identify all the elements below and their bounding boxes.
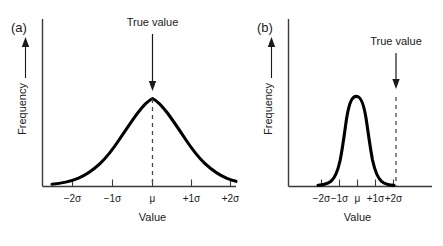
panel-a-label: (a) [11, 20, 27, 35]
figure-container: (a) Frequency −2σ −1σ μ +1σ [0, 0, 443, 246]
tick-label: +1σ [367, 193, 385, 204]
tick-label: −2σ [313, 193, 331, 204]
panel-a-x-ticks [73, 180, 231, 187]
panel-b-y-axis-title: Frequency [262, 83, 274, 135]
tick-label: +1σ [183, 193, 201, 204]
panel-a-y-axis-title: Frequency [16, 83, 28, 135]
panel-b-distribution-curve [318, 97, 394, 186]
panel-a-distribution-curve [52, 99, 236, 185]
panel-b: (b) Frequency −2σ −1σ μ +1σ [257, 19, 432, 223]
tick-label: μ [355, 193, 361, 204]
panel-a-true-value-annotation: True value [127, 16, 179, 186]
tick-label: μ [150, 193, 156, 204]
panel-b-true-value-arrowhead [392, 79, 399, 89]
panel-b-x-tick-labels: −2σ −1σ μ +1σ +2σ [313, 193, 403, 204]
tick-label: −1σ [104, 193, 122, 204]
panel-b-true-value-label: True value [370, 35, 422, 47]
panel-b-x-axis-title: Value [344, 211, 371, 223]
panel-b-ylabel-arrowhead [268, 37, 275, 47]
panel-a-true-value-arrowhead [149, 81, 156, 91]
tick-label: +2σ [222, 193, 240, 204]
panel-a-ylabel-arrowhead [22, 37, 29, 47]
tick-label: −1σ [331, 193, 349, 204]
panel-a: (a) Frequency −2σ −1σ μ +1σ [11, 16, 240, 223]
tick-label: −2σ [64, 193, 82, 204]
panel-a-true-value-label: True value [127, 16, 179, 28]
panel-a-x-tick-labels: −2σ −1σ μ +1σ +2σ [64, 193, 240, 204]
panel-a-x-axis-title: Value [139, 211, 166, 223]
panel-b-label: (b) [257, 20, 273, 35]
tick-label: +2σ [385, 193, 403, 204]
distribution-figure: (a) Frequency −2σ −1σ μ +1σ [0, 0, 443, 246]
panel-b-true-value-annotation: True value [370, 35, 422, 186]
